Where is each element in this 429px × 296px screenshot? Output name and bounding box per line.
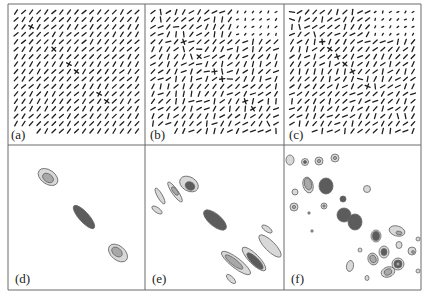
vector-tick [83,106,86,111]
vector-tick [367,76,368,81]
vector-tick [75,10,78,14]
vector-tick [182,106,185,111]
vector-tick [236,62,239,66]
vector-tick [266,78,271,80]
vector-tick [112,114,116,118]
vector-tick [328,25,332,28]
vector-tick [259,47,262,51]
vector-tick [37,114,40,118]
vector-tick [29,85,33,88]
vector-tick [253,47,254,52]
vector-tick [75,62,78,66]
vector-tick [312,48,316,51]
vector-tick [112,99,116,103]
vector-tick [314,54,315,59]
vector-tick [59,70,63,73]
contour-blob [412,251,415,254]
contour-blob [396,262,400,266]
vector-tick [351,17,353,22]
vector-tick [167,107,170,111]
vector-tick [14,33,18,36]
vector-tick [412,47,414,52]
vector-tick [335,47,339,51]
vector-tick [98,40,101,44]
vector-tick [366,32,368,37]
vector-tick [90,55,94,59]
vector-tick [268,11,269,13]
vector-tick [390,19,391,21]
vector-tick [388,108,393,110]
vector-tick [305,33,309,36]
vector-tick [320,63,325,65]
vector-tick [228,54,231,58]
panel-b [151,9,279,133]
vector-tick [121,99,124,103]
vector-tick [230,106,231,111]
contour-blob [225,273,237,285]
vector-tick [83,92,86,96]
vector-tick [14,62,17,66]
vector-tick [352,84,354,89]
vector-tick [105,10,109,14]
vector-tick [14,25,17,29]
vector-tick [222,17,223,22]
contour-blob [364,186,371,193]
vector-tick [158,33,163,35]
vector-tick [358,107,362,110]
vector-tick [388,41,393,43]
vector-tick [344,17,346,22]
vector-tick [373,107,376,111]
vector-tick [396,62,400,66]
vector-tick [53,92,56,97]
vector-tick [382,121,384,126]
vector-tick [189,101,194,102]
vector-tick [175,62,178,66]
vector-tick [221,121,224,126]
panel-a [14,10,139,134]
contour-blob [365,276,369,281]
vector-tick [82,25,86,28]
vector-tick [128,85,132,89]
contour-blob [317,159,320,162]
vector-tick [306,114,308,119]
vector-tick [105,122,108,126]
panel-c [289,9,415,133]
vector-tick [388,100,392,103]
vector-tick [366,106,369,110]
vector-tick [298,99,301,103]
vector-tick [175,10,177,15]
vector-tick [298,32,301,36]
vector-tick [151,26,155,29]
vector-tick [175,129,177,134]
vector-tick [397,114,398,119]
vector-tick [197,70,201,73]
vector-tick [168,54,169,59]
panel-label-b: (b) [150,127,165,142]
vector-cross [183,39,185,44]
vector-tick [191,54,192,59]
vector-tick [212,11,217,13]
vector-tick [305,85,309,88]
vector-tick [335,18,340,20]
vector-tick [22,10,26,13]
vector-tick [403,63,407,66]
vector-tick [98,121,101,125]
vector-tick [205,84,208,88]
vector-tick [299,121,300,126]
vector-tick [189,18,193,21]
vector-tick [396,55,400,59]
vector-tick [411,77,415,80]
vector-tick [90,62,93,66]
vector-tick [182,25,186,28]
vector-tick [351,106,353,111]
vector-tick [59,92,63,96]
vector-tick [168,84,169,89]
vector-tick [351,54,353,59]
vector-tick [45,106,47,111]
vector-tick [214,17,215,22]
vector-tick [258,92,262,95]
vector-tick [190,114,193,118]
vector-tick [30,17,33,21]
vector-tick [245,26,246,28]
vector-tick [113,69,116,73]
